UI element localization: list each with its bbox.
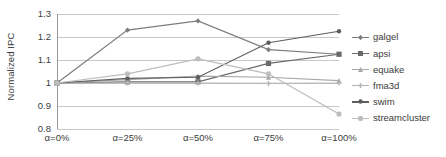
data-point-marker <box>54 80 59 85</box>
y-axis-title: Normalized IPC <box>0 0 22 133</box>
data-point-marker <box>336 52 341 57</box>
data-point-marker <box>266 61 271 66</box>
chart-legend: galgelapsiequakefma3dswimstreamcluster <box>352 29 446 126</box>
data-point-marker <box>196 75 200 79</box>
legend-item-streamcluster[interactable]: streamcluster <box>352 110 446 126</box>
y-axis-tick-label: 1.1 <box>38 55 51 65</box>
legend-marker-icon <box>352 97 369 107</box>
data-point-marker <box>266 81 271 86</box>
data-point-marker <box>195 56 200 61</box>
data-point-marker <box>266 71 271 76</box>
x-axis-tick-label: α=100% <box>321 132 356 143</box>
data-point-marker <box>337 29 341 33</box>
legend-label: fma3d <box>373 81 399 91</box>
data-point-marker <box>336 111 341 116</box>
y-axis-tick-labels: 0.80.911.11.21.3 <box>22 0 54 140</box>
legend-label: apsi <box>373 49 390 59</box>
legend-marker-icon <box>352 32 369 42</box>
legend-label: streamcluster <box>373 113 430 123</box>
legend-item-apsi[interactable]: apsi <box>352 45 446 61</box>
x-axis-tick-label: α=75% <box>253 132 283 143</box>
legend-marker-icon <box>352 48 369 58</box>
legend-marker-icon <box>352 81 369 91</box>
gridline <box>57 129 339 130</box>
data-point-marker <box>125 71 130 76</box>
x-axis-tick-label: α=50% <box>183 132 213 143</box>
chart-container: Normalized IPC 0.80.911.11.21.3 α=0%α=25… <box>0 0 446 157</box>
legend-label: swim <box>373 97 395 107</box>
x-axis-tick-labels: α=0%α=25%α=50%α=75%α=100% <box>57 132 339 152</box>
data-point-marker <box>195 18 200 23</box>
data-point-marker <box>125 76 129 80</box>
y-axis-title-label: Normalized IPC <box>6 33 17 101</box>
y-axis-tick-label: 1 <box>46 78 51 88</box>
x-axis-tick-label: α=0% <box>45 132 70 143</box>
plot-area <box>57 14 339 129</box>
y-axis-tick-label: 1.2 <box>38 32 51 42</box>
legend-item-galgel[interactable]: galgel <box>352 29 446 45</box>
x-axis-tick-label: α=25% <box>112 132 142 143</box>
series-line <box>57 59 339 114</box>
legend-label: galgel <box>373 32 398 42</box>
legend-item-equake[interactable]: equake <box>352 61 446 77</box>
legend-item-fma3d[interactable]: fma3d <box>352 78 446 94</box>
series-streamcluster <box>54 56 341 116</box>
y-axis-tick-label: 0.9 <box>38 101 51 111</box>
y-axis-tick-label: 1.3 <box>38 9 51 19</box>
data-point-marker <box>266 41 270 45</box>
series-plot <box>57 14 339 129</box>
legend-label: equake <box>373 65 404 75</box>
data-point-marker <box>266 47 271 52</box>
legend-marker-icon <box>352 64 369 74</box>
legend-item-swim[interactable]: swim <box>352 94 446 110</box>
legend-marker-icon <box>352 113 369 123</box>
